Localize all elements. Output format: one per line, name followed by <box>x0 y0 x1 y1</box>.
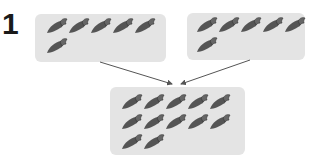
carrot-icon <box>67 17 91 35</box>
carrot-icon <box>186 113 210 131</box>
carrot-icon <box>45 37 69 55</box>
carrot-icon <box>120 133 144 151</box>
carrot-icon <box>208 93 232 111</box>
carrot-icon <box>239 16 263 34</box>
carrot-icon <box>283 16 307 34</box>
arrow-right <box>181 60 250 84</box>
carrot-icon <box>195 36 219 54</box>
carrot-icon <box>217 16 241 34</box>
carrot-icon <box>45 17 69 35</box>
carrot-icon <box>120 113 144 131</box>
carrot-icon <box>142 93 166 111</box>
carrot-icon <box>186 93 210 111</box>
carrot-icon <box>120 93 144 111</box>
carrot-icon <box>142 133 166 151</box>
carrot-icon <box>164 113 188 131</box>
carrot-icon <box>89 17 113 35</box>
carrot-icon <box>261 16 285 34</box>
carrot-icon <box>164 93 188 111</box>
carrot-icon <box>195 16 219 34</box>
carrot-icon <box>142 113 166 131</box>
carrot-icon <box>208 113 232 131</box>
carrot-icon <box>133 17 157 35</box>
arrow-left <box>100 62 172 84</box>
carrot-icon <box>111 17 135 35</box>
